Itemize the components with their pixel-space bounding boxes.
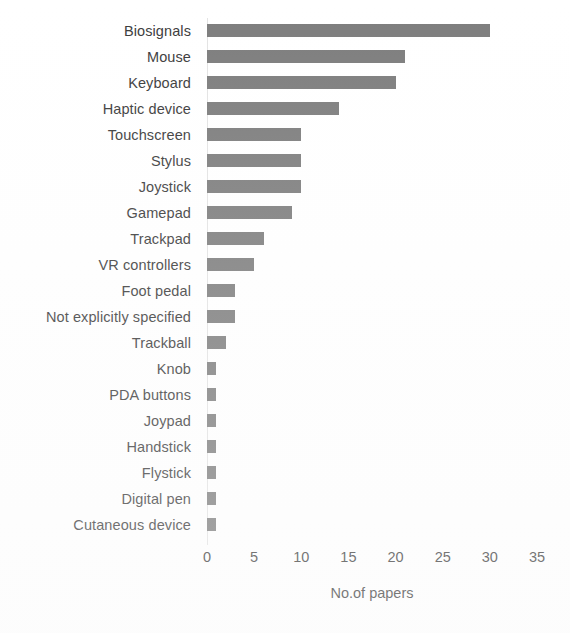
x-axis-title: No.of papers xyxy=(207,585,537,601)
bar xyxy=(207,414,216,427)
bar-row xyxy=(207,44,537,70)
bar xyxy=(207,128,301,141)
bar-chart-figure: BiosignalsMouseKeyboardHaptic deviceTouc… xyxy=(0,0,570,633)
bar-row xyxy=(207,200,537,226)
bar xyxy=(207,492,216,505)
category-label-row: Cutaneous device xyxy=(0,512,200,538)
x-tick-label: 10 xyxy=(293,549,309,565)
category-axis: BiosignalsMouseKeyboardHaptic deviceTouc… xyxy=(0,18,200,545)
bar xyxy=(207,232,264,245)
category-label: Biosignals xyxy=(124,23,191,39)
bar-row xyxy=(207,512,537,538)
category-label-row: Handstick xyxy=(0,434,200,460)
bar-row xyxy=(207,408,537,434)
category-label-row: Stylus xyxy=(0,148,200,174)
x-tick-label: 30 xyxy=(482,549,498,565)
category-label: VR controllers xyxy=(99,257,191,273)
category-label: Touchscreen xyxy=(108,127,191,143)
category-label: Joypad xyxy=(144,413,191,429)
x-tick-label: 35 xyxy=(529,549,545,565)
bar xyxy=(207,258,254,271)
bar-row xyxy=(207,148,537,174)
category-label-row: Knob xyxy=(0,356,200,382)
category-label: Mouse xyxy=(147,49,191,65)
bar-row xyxy=(207,382,537,408)
category-label: Knob xyxy=(157,361,191,377)
category-label-row: Keyboard xyxy=(0,70,200,96)
bar xyxy=(207,50,405,63)
category-label-row: Biosignals xyxy=(0,18,200,44)
bar-row xyxy=(207,96,537,122)
category-label-row: PDA buttons xyxy=(0,382,200,408)
bar xyxy=(207,284,235,297)
bar xyxy=(207,102,339,115)
category-label: Joystick xyxy=(139,179,191,195)
bar xyxy=(207,518,216,531)
bar-row xyxy=(207,434,537,460)
category-label: Gamepad xyxy=(127,205,191,221)
category-label: Stylus xyxy=(151,153,191,169)
bar-row xyxy=(207,252,537,278)
bar xyxy=(207,24,490,37)
bar-row xyxy=(207,486,537,512)
bar-row xyxy=(207,278,537,304)
category-label: Not explicitly specified xyxy=(46,309,191,325)
bar xyxy=(207,206,292,219)
category-label: Handstick xyxy=(126,439,191,455)
x-tick-label: 20 xyxy=(387,549,403,565)
bar xyxy=(207,154,301,167)
bar xyxy=(207,310,235,323)
bar-row xyxy=(207,174,537,200)
bar-row xyxy=(207,122,537,148)
category-label-row: Touchscreen xyxy=(0,122,200,148)
category-label: Cutaneous device xyxy=(73,517,191,533)
category-label-row: Joystick xyxy=(0,174,200,200)
bar xyxy=(207,76,396,89)
category-label-row: Haptic device xyxy=(0,96,200,122)
category-label: Haptic device xyxy=(103,101,191,117)
category-label-row: Not explicitly specified xyxy=(0,304,200,330)
bar-row xyxy=(207,460,537,486)
bar xyxy=(207,336,226,349)
category-label-row: Trackball xyxy=(0,330,200,356)
category-label-row: VR controllers xyxy=(0,252,200,278)
category-label: Keyboard xyxy=(128,75,191,91)
bar-row xyxy=(207,304,537,330)
bar xyxy=(207,466,216,479)
category-label: Foot pedal xyxy=(121,283,191,299)
category-label-row: Trackpad xyxy=(0,226,200,252)
bar-row xyxy=(207,70,537,96)
x-tick-label: 0 xyxy=(203,549,211,565)
bar xyxy=(207,362,216,375)
x-axis-ticks: 05101520253035 xyxy=(207,549,537,571)
x-tick-label: 25 xyxy=(435,549,451,565)
category-label: PDA buttons xyxy=(109,387,191,403)
bar-row xyxy=(207,226,537,252)
category-label-row: Mouse xyxy=(0,44,200,70)
category-label-row: Gamepad xyxy=(0,200,200,226)
x-tick-label: 15 xyxy=(340,549,356,565)
x-tick-label: 5 xyxy=(250,549,258,565)
category-label: Trackpad xyxy=(130,231,191,247)
category-label-row: Joypad xyxy=(0,408,200,434)
category-label: Flystick xyxy=(142,465,191,481)
category-label-row: Flystick xyxy=(0,460,200,486)
bar xyxy=(207,440,216,453)
category-label-row: Digital pen xyxy=(0,486,200,512)
bar-row xyxy=(207,18,537,44)
bar xyxy=(207,180,301,193)
bar-row xyxy=(207,356,537,382)
category-label: Digital pen xyxy=(121,491,191,507)
bar-row xyxy=(207,330,537,356)
category-label-row: Foot pedal xyxy=(0,278,200,304)
bar xyxy=(207,388,216,401)
category-label: Trackball xyxy=(132,335,191,351)
plot-area xyxy=(207,18,537,545)
